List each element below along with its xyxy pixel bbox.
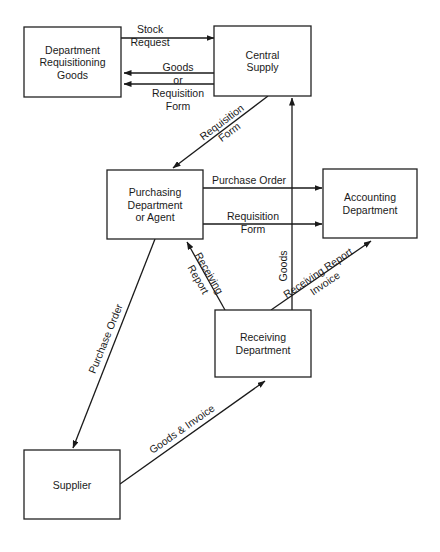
edge-receiving-report-to-purchasing: ReceivingReport <box>182 242 226 310</box>
edge-label: Goods <box>277 251 289 282</box>
edge-purchase-order-to-supplier: Purchase Order <box>73 239 155 448</box>
arrow-goods-invoice-to-receiving <box>120 381 265 484</box>
edge-reqform-to-dept: RequisitionForm <box>124 84 214 112</box>
edge-label: Receiving ReportInvoice <box>281 245 362 310</box>
edge-label-line: Purchase Order <box>212 174 287 186</box>
edge-goods-to-central: Goods <box>277 98 292 310</box>
node-purchasing: PurchasingDepartmentor Agent <box>107 170 203 239</box>
node-label-line: or Agent <box>135 211 174 223</box>
node-label-line: Supply <box>246 61 279 73</box>
edge-label: ReceivingReport <box>182 250 226 302</box>
node-label: PurchasingDepartmentor Agent <box>128 186 183 223</box>
edge-label: RequisitionForm <box>197 101 253 152</box>
node-label-line: Department <box>343 204 398 216</box>
nodes-layer: DepartmentRequisitioningGoodsCentralSupp… <box>24 26 417 519</box>
edge-label: Goods & Invoice <box>147 402 217 456</box>
arrow-purchase-order-to-supplier <box>73 239 155 448</box>
node-accounting: AccountingDepartment <box>323 169 417 238</box>
edge-goods-invoice-to-receiving: Goods & Invoice <box>120 381 265 484</box>
edge-purchase-order-to-accounting: Purchase Order <box>203 174 322 188</box>
node-receiving: ReceivingDepartment <box>215 310 311 377</box>
edge-label-line: Requisition <box>227 210 279 222</box>
node-label: ReceivingDepartment <box>236 331 291 356</box>
node-label-line: Accounting <box>344 191 396 203</box>
edge-stock-request: StockRequest <box>121 23 214 48</box>
edge-label-line: Stock <box>137 23 164 35</box>
edge-label-line: Form <box>241 223 266 235</box>
node-label-line: Central <box>246 49 280 61</box>
edge-goods-to-dept: Goodsor <box>124 61 214 86</box>
edge-reqform-to-accounting: RequisitionForm <box>203 210 322 235</box>
node-label: CentralSupply <box>246 49 280 74</box>
edge-label: StockRequest <box>130 23 169 48</box>
node-label-line: Requisitioning <box>40 56 106 68</box>
edge-label-line: Goods & Invoice <box>147 402 217 456</box>
node-supplier: Supplier <box>24 450 120 519</box>
edge-label-line: Form <box>166 100 191 112</box>
edge-label-line: Goods <box>277 251 289 282</box>
node-central: CentralSupply <box>214 26 311 96</box>
node-label-line: Purchasing <box>129 186 182 198</box>
edge-label: RequisitionForm <box>227 210 279 235</box>
node-label-line: Department <box>128 199 183 211</box>
node-label-line: Receiving <box>240 331 286 343</box>
node-label-line: Goods <box>57 69 88 81</box>
node-label-line: Department <box>45 44 100 56</box>
node-label: Supplier <box>53 479 92 491</box>
node-label: AccountingDepartment <box>343 191 398 216</box>
node-label-line: Department <box>236 344 291 356</box>
node-dept: DepartmentRequisitioningGoods <box>24 27 121 97</box>
edge-label-line: Goods <box>163 61 194 73</box>
edge-label-line: Requisition <box>152 87 204 99</box>
edge-label: Purchase Order <box>212 174 287 186</box>
node-label-line: Supplier <box>53 479 92 491</box>
flowchart-diagram: StockRequestGoodsorRequisitionFormRequis… <box>0 0 440 552</box>
edge-label: RequisitionForm <box>152 87 204 112</box>
edge-label-line: Request <box>130 36 169 48</box>
